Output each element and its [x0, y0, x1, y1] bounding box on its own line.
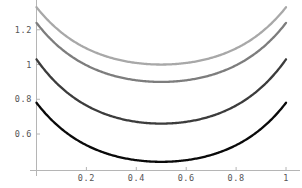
- x-tick-label: 0.2: [66, 173, 106, 183]
- y-tick-label: 1.2: [0, 25, 32, 35]
- x-tick-label: 0.4: [116, 173, 156, 183]
- chart-figure: 0.60.811.2 0.20.40.60.81: [0, 0, 302, 188]
- y-tick-label: 0.8: [0, 94, 32, 104]
- plot-canvas: [0, 0, 302, 188]
- series-line-curve-3: [37, 59, 287, 123]
- series-line-curve-2: [37, 23, 287, 82]
- series-line-curve-1: [37, 7, 287, 64]
- y-tick-label: 1: [0, 60, 32, 70]
- data-series-group: [37, 7, 287, 162]
- y-tick-label: 0.6: [0, 129, 32, 139]
- x-tick-label: 0.6: [166, 173, 206, 183]
- y-axis-ticks: [37, 30, 41, 134]
- x-tick-label: 0.8: [216, 173, 256, 183]
- x-axis-ticks: [86, 167, 286, 171]
- series-line-curve-4: [37, 103, 287, 162]
- x-tick-label: 1: [266, 173, 302, 183]
